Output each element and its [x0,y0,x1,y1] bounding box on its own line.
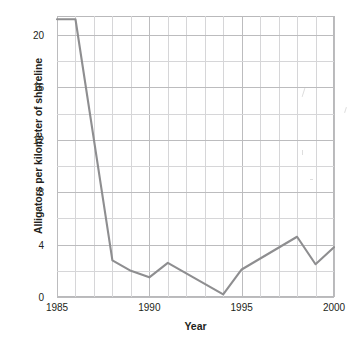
scan-artifact-2 [344,107,347,113]
plot-area [57,16,334,297]
y-tick-label: 20 [33,29,44,40]
x-tick-label: 1995 [231,302,253,313]
data-line-alligators [57,19,334,294]
y-tick-label: 8 [38,187,44,198]
scan-artifact-4 [310,179,313,180]
y-tick-label: 4 [38,239,44,250]
y-tick-label: 16 [33,82,44,93]
gridline-vertical [334,16,335,297]
data-series-svg [57,16,334,297]
x-tick-label: 1985 [46,302,68,313]
y-tick-label: 12 [33,134,44,145]
x-axis-tick-labels: 1985199019952000 [57,302,334,318]
y-axis-tick-labels: 048121620 [0,16,52,297]
scan-artifact-3 [302,150,303,155]
x-tick-label: 2000 [323,302,345,313]
x-tick-label: 1990 [138,302,160,313]
x-axis-title: Year [57,320,334,332]
gridline-horizontal [57,297,334,298]
line-chart-figure: Alligators per kilometer of shoreline 04… [0,0,354,350]
y-tick-label: 0 [38,292,44,303]
